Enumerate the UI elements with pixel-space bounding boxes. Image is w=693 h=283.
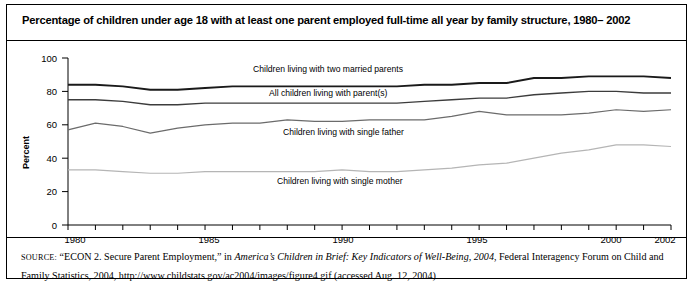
x-axis-ticks [68, 225, 671, 230]
source-italic-title: America’s Children in Brief: Key Indicat… [234, 251, 494, 262]
figure-page: Percentage of children under age 18 with… [0, 0, 693, 283]
series-line-mother [68, 145, 671, 173]
chart-area: Percent 100 80 60 40 20 0 1980 1985 1990… [7, 41, 686, 238]
axes [62, 58, 671, 230]
series-label-mother: Children living with single mother [277, 176, 403, 186]
source-note: SOURCE: “ECON 2. Secure Parent Employmen… [7, 239, 686, 278]
y-axis-ticks [62, 58, 68, 225]
series-label-father: Children living with single father [283, 127, 404, 137]
source-part1: “ECON 2. Secure Parent Employment,” in [57, 251, 234, 262]
series-label-all: All children living with parent(s) [269, 88, 387, 98]
figure-title: Percentage of children under age 18 with… [22, 13, 672, 27]
source-prefix: SOURCE: [21, 253, 57, 262]
series-label-married: Children living with two married parents [253, 64, 403, 74]
